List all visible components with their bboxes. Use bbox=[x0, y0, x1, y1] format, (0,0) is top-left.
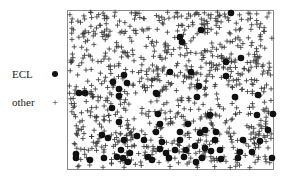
other-points bbox=[67, 10, 274, 171]
scatter-points bbox=[0, 0, 283, 183]
